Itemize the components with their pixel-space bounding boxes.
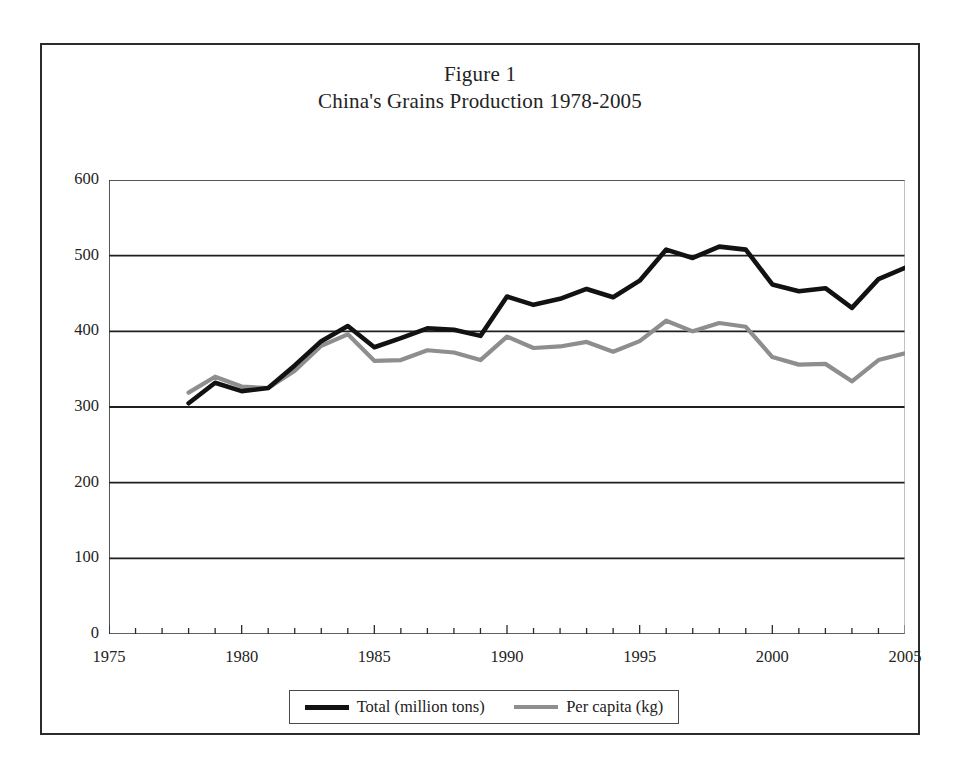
x-tick-label-1980: 1980 (207, 647, 277, 667)
y-tick-label-200: 200 (37, 472, 99, 492)
line-chart-svg (109, 180, 905, 634)
x-tick-label-2005: 2005 (870, 647, 940, 667)
y-tick-label-300: 300 (37, 396, 99, 416)
chart-title-block: Figure 1 China's Grains Production 1978-… (42, 61, 918, 115)
figure-number: Figure 1 (42, 61, 918, 88)
y-tick-label-500: 500 (37, 245, 99, 265)
x-tick-label-1990: 1990 (472, 647, 542, 667)
legend-item-total: Total (million tons) (305, 697, 485, 717)
y-tick-label-100: 100 (37, 547, 99, 567)
chart-title: China's Grains Production 1978-2005 (42, 88, 918, 115)
x-tick-label-1995: 1995 (605, 647, 675, 667)
series-line-total (189, 247, 905, 404)
figure-border: Figure 1 China's Grains Production 1978-… (40, 43, 920, 735)
legend-item-per-capita: Per capita (kg) (514, 697, 663, 717)
legend-swatch-per-capita-icon (514, 705, 558, 709)
legend-swatch-total-icon (305, 705, 349, 710)
legend-label-per-capita: Per capita (kg) (566, 697, 663, 717)
legend-label-total: Total (million tons) (357, 697, 485, 717)
chart-legend: Total (million tons) Per capita (kg) (289, 690, 679, 724)
y-tick-label-600: 600 (37, 169, 99, 189)
x-tick-label-2000: 2000 (737, 647, 807, 667)
x-tick-label-1985: 1985 (339, 647, 409, 667)
x-tick-label-1975: 1975 (74, 647, 144, 667)
y-tick-label-0: 0 (37, 623, 99, 643)
y-tick-label-400: 400 (37, 320, 99, 340)
plot-area: 0100200300400500600 19751980198519901995… (109, 180, 905, 634)
gridlines (109, 180, 905, 558)
figure-page: Figure 1 China's Grains Production 1978-… (0, 0, 960, 779)
x-axis-minor-ticks (109, 625, 905, 634)
